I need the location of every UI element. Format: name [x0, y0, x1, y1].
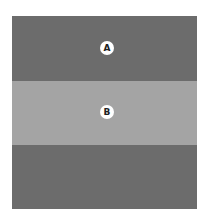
label-a-badge: A — [100, 41, 114, 55]
dark-background-square: A B — [12, 16, 197, 209]
label-b-badge: B — [100, 105, 114, 119]
